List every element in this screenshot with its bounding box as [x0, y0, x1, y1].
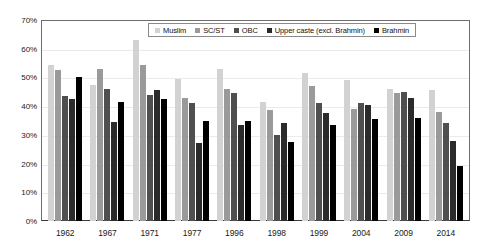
- bar[interactable]: [238, 125, 244, 221]
- legend-item[interactable]: Upper caste (excl. Brahmin): [267, 26, 365, 35]
- bar[interactable]: [161, 99, 167, 221]
- bar-group: [425, 20, 467, 221]
- y-axis-tick-label: 60%: [21, 44, 37, 53]
- bar[interactable]: [62, 96, 68, 221]
- y-axis-tick-label: 40%: [21, 102, 37, 111]
- bar[interactable]: [408, 98, 414, 221]
- legend-swatch-icon: [155, 28, 160, 33]
- x-axis-tick-label: 1977: [171, 223, 213, 243]
- bar-group: [382, 20, 424, 221]
- bar[interactable]: [323, 113, 329, 221]
- bar-group: [340, 20, 382, 221]
- bar[interactable]: [224, 89, 230, 221]
- x-axis-tick-label: 1962: [44, 223, 86, 243]
- bar[interactable]: [443, 123, 449, 221]
- bar[interactable]: [154, 90, 160, 221]
- bar[interactable]: [182, 98, 188, 221]
- bar-group: [129, 20, 171, 221]
- bar[interactable]: [118, 102, 124, 221]
- bar[interactable]: [450, 141, 456, 221]
- bar-group: [298, 20, 340, 221]
- bar[interactable]: [111, 122, 117, 221]
- x-axis-tick-label: 2004: [340, 223, 382, 243]
- legend-swatch-icon: [267, 28, 272, 33]
- bar[interactable]: [140, 65, 146, 221]
- y-axis-tick-label: 0%: [26, 217, 37, 226]
- bar[interactable]: [104, 89, 110, 221]
- bar-group: [44, 20, 86, 221]
- bar[interactable]: [351, 109, 357, 221]
- x-axis-tick-label: 1999: [298, 223, 340, 243]
- bar[interactable]: [267, 110, 273, 221]
- legend-label: Upper caste (excl. Brahmin): [275, 26, 365, 35]
- bar[interactable]: [147, 95, 153, 221]
- x-axis-tick-label: 1967: [86, 223, 128, 243]
- bar[interactable]: [48, 65, 54, 221]
- bar[interactable]: [260, 102, 266, 221]
- bar[interactable]: [97, 69, 103, 221]
- bar[interactable]: [309, 86, 315, 221]
- bar[interactable]: [55, 70, 61, 221]
- bar[interactable]: [196, 143, 202, 221]
- bar[interactable]: [217, 69, 223, 221]
- bar[interactable]: [358, 103, 364, 221]
- legend-item[interactable]: OBC: [234, 26, 258, 35]
- bar[interactable]: [316, 103, 322, 221]
- bar[interactable]: [429, 90, 435, 221]
- legend-item[interactable]: Muslim: [155, 26, 186, 35]
- bar[interactable]: [281, 123, 287, 221]
- x-axis-tick-label: 1971: [129, 223, 171, 243]
- x-axis: 1962196719711977199619981999200420092014: [41, 223, 470, 243]
- bar[interactable]: [274, 135, 280, 221]
- bar[interactable]: [401, 92, 407, 221]
- bar-group: [255, 20, 297, 221]
- bar[interactable]: [302, 73, 308, 221]
- legend-item[interactable]: SC/ST: [195, 26, 225, 35]
- chart-legend: MuslimSC/STOBCUpper caste (excl. Brahmin…: [148, 23, 416, 37]
- bar[interactable]: [330, 125, 336, 221]
- legend-item[interactable]: Brahmin: [374, 26, 409, 35]
- legend-label: Brahmin: [382, 26, 409, 35]
- bar[interactable]: [288, 142, 294, 221]
- bar[interactable]: [175, 79, 181, 221]
- bar[interactable]: [415, 118, 421, 221]
- y-axis-tick-label: 10%: [21, 188, 37, 197]
- bars-layer: [41, 20, 470, 221]
- bar[interactable]: [231, 93, 237, 221]
- y-axis-tick-label: 20%: [21, 159, 37, 168]
- x-axis-tick-label: 1996: [213, 223, 255, 243]
- bar[interactable]: [344, 80, 350, 221]
- bar[interactable]: [457, 166, 463, 221]
- legend-label: SC/ST: [203, 26, 225, 35]
- bar[interactable]: [372, 119, 378, 221]
- legend-label: Muslim: [163, 26, 186, 35]
- legend-swatch-icon: [195, 28, 200, 33]
- bar-group: [213, 20, 255, 221]
- bar[interactable]: [133, 40, 139, 221]
- x-axis-tick-label: 2014: [425, 223, 467, 243]
- bar[interactable]: [394, 93, 400, 221]
- y-axis-tick-label: 50%: [21, 73, 37, 82]
- bar[interactable]: [203, 121, 209, 222]
- y-axis-tick-label: 70%: [21, 16, 37, 25]
- bar[interactable]: [436, 112, 442, 221]
- bar[interactable]: [365, 105, 371, 221]
- legend-label: OBC: [242, 26, 258, 35]
- bar[interactable]: [189, 103, 195, 221]
- x-axis-tick-label: 2009: [382, 223, 424, 243]
- legend-swatch-icon: [234, 28, 239, 33]
- x-axis-tick-label: 1998: [255, 223, 297, 243]
- legend-swatch-icon: [374, 28, 379, 33]
- y-axis-tick-label: 30%: [21, 130, 37, 139]
- bar[interactable]: [90, 85, 96, 221]
- y-axis: 70%60%50%40%30%20%10%0%: [0, 20, 37, 221]
- bar-group: [86, 20, 128, 221]
- bar[interactable]: [69, 99, 75, 221]
- bar-chart: 70%60%50%40%30%20%10%0% 1962196719711977…: [0, 0, 478, 249]
- bar[interactable]: [245, 121, 251, 222]
- bar-group: [171, 20, 213, 221]
- bar[interactable]: [387, 89, 393, 221]
- bar[interactable]: [76, 77, 82, 221]
